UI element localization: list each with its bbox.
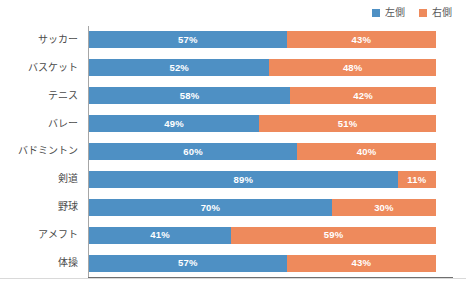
legend-item-label: 左側 (385, 8, 405, 18)
bar-segment-left[interactable]: 70% (89, 199, 332, 216)
legend-item-left[interactable]: 左側 (372, 8, 405, 18)
bar-value-label: 11% (407, 175, 426, 185)
chart-row: テニス58%42% (0, 82, 466, 110)
bar-value-label: 43% (352, 35, 372, 45)
bar-value-label: 57% (178, 35, 198, 45)
bar-value-label: 58% (180, 91, 200, 101)
bar-value-label: 59% (324, 230, 344, 240)
x-axis-baseline-extension (0, 278, 466, 279)
category-axis-label: 体操 (0, 258, 84, 268)
stacked-bar[interactable]: 89%11% (89, 171, 436, 188)
stacked-bar[interactable]: 41%59% (89, 227, 436, 244)
bar-segment-right[interactable]: 43% (287, 255, 436, 272)
square-swatch-icon (372, 9, 380, 17)
chart-row: アメフト41%59% (0, 221, 466, 249)
bar-value-label: 43% (352, 258, 372, 268)
stacked-bar[interactable]: 60%40% (89, 143, 436, 160)
stacked-bar-chart: 左側 右側 サッカー57%43%バスケット52%48%テニス58%42%バレー4… (0, 0, 466, 293)
stacked-bar[interactable]: 57%43% (89, 31, 436, 48)
bar-segment-right[interactable]: 48% (269, 59, 436, 76)
category-axis-label: アメフト (0, 230, 84, 240)
stacked-bar[interactable]: 70%30% (89, 199, 436, 216)
bar-value-label: 49% (164, 119, 184, 129)
category-axis-label: バレー (0, 119, 84, 129)
category-axis-label: 剣道 (0, 174, 84, 184)
bar-value-label: 51% (338, 119, 358, 129)
chart-legend: 左側 右側 (372, 6, 452, 20)
bar-segment-right[interactable]: 11% (398, 171, 436, 188)
stacked-bar[interactable]: 52%48% (89, 59, 436, 76)
stacked-bar[interactable]: 58%42% (89, 87, 436, 104)
bar-segment-left[interactable]: 89% (89, 171, 398, 188)
bar-segment-left[interactable]: 60% (89, 143, 297, 160)
bar-segment-right[interactable]: 30% (332, 199, 436, 216)
bar-segment-right[interactable]: 43% (287, 31, 436, 48)
chart-row: 剣道89%11% (0, 165, 466, 193)
legend-item-label: 右側 (432, 8, 452, 18)
bar-value-label: 52% (169, 63, 189, 73)
bar-value-label: 40% (357, 147, 377, 157)
bar-segment-left[interactable]: 52% (89, 59, 269, 76)
category-axis-label: サッカー (0, 35, 84, 45)
chart-row: サッカー57%43% (0, 26, 466, 54)
category-axis-label: テニス (0, 91, 84, 101)
bar-segment-left[interactable]: 41% (89, 227, 231, 244)
category-axis-label: 野球 (0, 202, 84, 212)
bar-value-label: 42% (353, 91, 373, 101)
chart-rows: サッカー57%43%バスケット52%48%テニス58%42%バレー49%51%バ… (0, 26, 466, 277)
bar-value-label: 60% (183, 147, 203, 157)
bar-segment-right[interactable]: 40% (297, 143, 436, 160)
bar-value-label: 57% (178, 258, 198, 268)
category-axis-label: バドミントン (0, 146, 84, 156)
bar-value-label: 41% (150, 230, 170, 240)
bar-value-label: 30% (374, 203, 394, 213)
legend-item-right[interactable]: 右側 (419, 8, 452, 18)
bar-segment-right[interactable]: 59% (231, 227, 436, 244)
category-axis-label: バスケット (0, 63, 84, 73)
bar-segment-right[interactable]: 51% (259, 115, 436, 132)
bar-value-label: 89% (234, 175, 254, 185)
bar-segment-left[interactable]: 57% (89, 31, 287, 48)
chart-row: 体操57%43% (0, 249, 466, 277)
chart-row: バスケット52%48% (0, 54, 466, 82)
bar-segment-left[interactable]: 58% (89, 87, 290, 104)
stacked-bar[interactable]: 57%43% (89, 255, 436, 272)
bar-segment-left[interactable]: 57% (89, 255, 287, 272)
bar-segment-right[interactable]: 42% (290, 87, 436, 104)
bar-segment-left[interactable]: 49% (89, 115, 259, 132)
stacked-bar[interactable]: 49%51% (89, 115, 436, 132)
chart-row: バレー49%51% (0, 110, 466, 138)
bar-value-label: 48% (343, 63, 363, 73)
bar-value-label: 70% (201, 203, 221, 213)
square-swatch-icon (419, 9, 427, 17)
chart-row: バドミントン60%40% (0, 138, 466, 166)
chart-row: 野球70%30% (0, 193, 466, 221)
